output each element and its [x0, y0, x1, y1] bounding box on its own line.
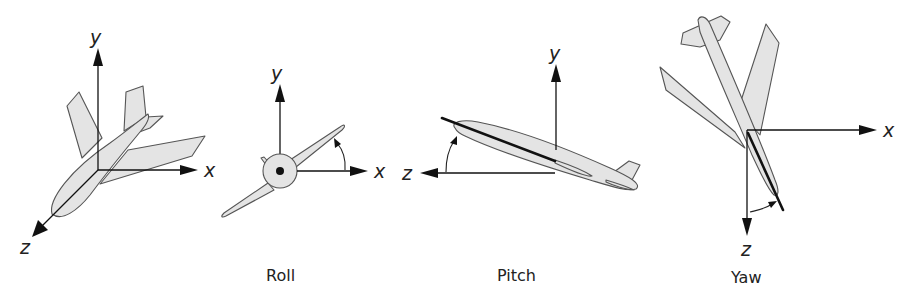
aircraft-rotation-diagram: y x z y x Roll [0, 0, 902, 304]
roll-wing-lower [222, 183, 274, 217]
roll-x-axis-arrowhead [350, 166, 368, 176]
pitch-y-axis-label: y [548, 42, 561, 64]
yaw-z-axis-label: z [740, 238, 752, 260]
roll-rotation-arc [337, 143, 345, 170]
roll-y-axis-arrowhead [275, 84, 285, 102]
x-axis-arrowhead [180, 165, 198, 175]
pitch-y-axis-arrowhead [551, 64, 561, 82]
yaw-caption: Yaw [730, 268, 761, 287]
panel-yaw: x z Yaw [660, 16, 895, 287]
yaw-z-axis-arrowhead [742, 218, 752, 236]
panel-roll: y x Roll [222, 62, 386, 285]
pitch-caption: Pitch [497, 266, 536, 285]
roll-x-axis-label: x [373, 160, 386, 182]
roll-y-axis-label: y [270, 62, 283, 84]
yaw-rotation-arc [750, 204, 772, 212]
yaw-x-axis-label: x [882, 119, 895, 141]
pitch-z-axis-arrowhead [420, 168, 438, 178]
yaw-heading-line [748, 133, 783, 210]
panel-axes: y x z [19, 26, 216, 258]
pitch-rotation-arrowhead [450, 136, 457, 145]
pitch-z-axis-label: z [401, 162, 413, 184]
pitch-fuselage [454, 121, 638, 190]
panel-pitch: y z Pitch [401, 42, 640, 285]
yaw-x-axis-arrowhead [859, 125, 877, 135]
yaw-rotation-arrowhead [768, 201, 777, 208]
y-axis-arrowhead [93, 48, 103, 66]
pitch-rotation-arc [446, 141, 454, 172]
y-axis-label: y [89, 26, 102, 48]
x-axis-label: x [203, 159, 216, 181]
z-axis-label: z [19, 236, 31, 258]
roll-caption: Roll [266, 266, 295, 285]
roll-axis-dot [276, 167, 284, 175]
left-wing [67, 92, 102, 158]
